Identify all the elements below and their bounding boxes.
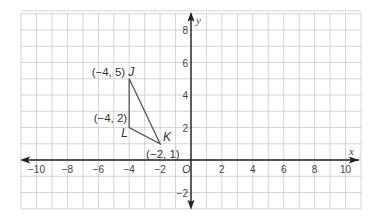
y-tick-label: 8: [182, 25, 188, 36]
x-axis-name: x: [348, 145, 354, 157]
x-tick-label: −4: [123, 164, 135, 175]
y-tick-label: 2: [182, 123, 188, 134]
x-tick-label: −6: [93, 164, 105, 175]
y-axis-name: y: [195, 14, 201, 26]
y-tick-label: −2: [177, 188, 189, 199]
x-tick-label: 8: [312, 164, 318, 175]
axes: xy: [20, 12, 359, 210]
y-tick-label: 6: [182, 58, 188, 69]
vertex-k-name: K: [163, 130, 172, 144]
vertex-l-coord-label: (−4, 2): [94, 112, 128, 124]
vertex-j-coord-label: (−4, 5): [92, 66, 126, 78]
origin-label: O: [182, 163, 191, 175]
x-tick-label: 10: [340, 164, 352, 175]
tick-labels: −10−8−6−4−22468108642−2O: [28, 25, 351, 199]
x-tick-label: 2: [219, 164, 225, 175]
vertex-k-coord-label: (−2, 1): [146, 148, 180, 160]
x-tick-label: 6: [281, 164, 287, 175]
x-tick-label: −8: [62, 164, 74, 175]
vertex-l-name: L: [121, 126, 128, 140]
x-tick-label: 4: [250, 164, 256, 175]
vertex-j-name: J: [127, 65, 135, 79]
x-tick-label: −10: [28, 164, 45, 175]
x-tick-label: −2: [154, 164, 166, 175]
coordinate-plane: xy −10−8−6−4−22468108642−2O (−4, 5)J(−4,…: [0, 0, 378, 222]
y-tick-label: 4: [182, 90, 188, 101]
